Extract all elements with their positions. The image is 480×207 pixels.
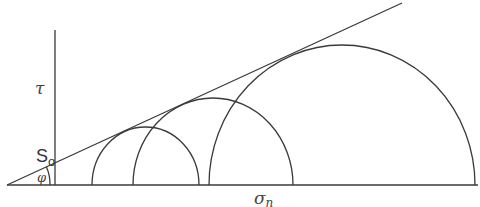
- phi-label: φ: [37, 170, 47, 185]
- tau-label: τ: [35, 78, 45, 98]
- mohr-coulomb-diagram: τ So φ σn: [0, 0, 480, 207]
- mohr-circle-medium: [133, 98, 293, 185]
- mohr-circle-large: [209, 45, 475, 185]
- phi-angle-arc: [47, 167, 51, 185]
- cohesion-label: So: [36, 146, 55, 169]
- sigma-n-label: σn: [254, 188, 273, 207]
- mohr-circle-small: [92, 127, 199, 185]
- failure-envelope-line: [7, 3, 402, 185]
